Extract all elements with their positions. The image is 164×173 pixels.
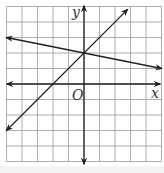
line-1 — [7, 10, 128, 131]
origin-label: O — [72, 87, 84, 103]
coordinate-plane: y x O — [0, 0, 164, 173]
y-axis-label: y — [71, 4, 81, 20]
x-axis-label: x — [151, 85, 159, 101]
